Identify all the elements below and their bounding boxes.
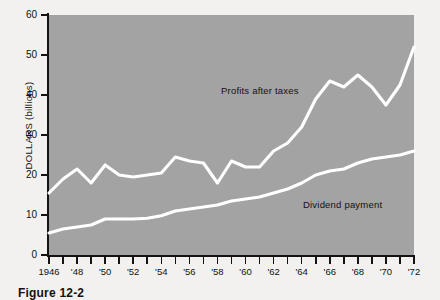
x-tick-mark bbox=[161, 257, 163, 264]
y-tick-mark bbox=[41, 214, 49, 216]
x-tick-label: '58 bbox=[211, 266, 223, 277]
y-tick-mark bbox=[41, 134, 49, 136]
y-tick-label: 40 bbox=[0, 89, 37, 100]
x-tick-label: '60 bbox=[239, 266, 251, 277]
x-tick-mark bbox=[132, 257, 134, 264]
x-tick-label: '56 bbox=[183, 266, 195, 277]
x-tick-mark bbox=[259, 257, 261, 264]
x-tick-mark bbox=[104, 257, 106, 264]
y-tick-mark bbox=[41, 174, 49, 176]
x-tick-label: '54 bbox=[155, 266, 167, 277]
x-tick-label: '64 bbox=[295, 266, 307, 277]
x-tick-label: '50 bbox=[99, 266, 111, 277]
y-tick-label: 10 bbox=[0, 209, 37, 220]
y-tick-label: 0 bbox=[0, 249, 37, 260]
series-label-profits-after-taxes: Profits after taxes bbox=[221, 85, 299, 96]
x-tick-label: '68 bbox=[352, 266, 364, 277]
x-tick-mark bbox=[343, 257, 345, 264]
figure-caption: Figure 12-2 bbox=[18, 286, 84, 300]
x-tick-mark bbox=[189, 257, 191, 264]
x-tick-mark bbox=[315, 257, 317, 264]
y-tick-label: 20 bbox=[0, 169, 37, 180]
x-tick-mark bbox=[287, 257, 289, 264]
x-tick-mark bbox=[357, 257, 359, 264]
x-tick-mark bbox=[371, 257, 373, 264]
y-tick-label: 50 bbox=[0, 49, 37, 60]
y-tick-mark bbox=[41, 94, 49, 96]
y-axis-title: DOLLARS (billions) bbox=[23, 46, 34, 206]
x-tick-mark bbox=[329, 257, 331, 264]
plot-area bbox=[49, 15, 414, 255]
x-tick-mark bbox=[273, 257, 275, 264]
x-tick-mark bbox=[146, 257, 148, 264]
x-tick-mark bbox=[203, 257, 205, 264]
x-tick-label: '62 bbox=[267, 266, 279, 277]
x-tick-label: '70 bbox=[380, 266, 392, 277]
x-tick-mark bbox=[217, 257, 219, 264]
y-tick-label: 30 bbox=[0, 129, 37, 140]
x-tick-label: '48 bbox=[71, 266, 83, 277]
x-tick-label: 1946 bbox=[38, 266, 59, 277]
x-tick-mark bbox=[62, 257, 64, 264]
x-tick-label: '52 bbox=[127, 266, 139, 277]
x-tick-mark bbox=[118, 257, 120, 264]
y-tick-mark bbox=[41, 54, 49, 56]
x-tick-mark bbox=[385, 257, 387, 264]
x-tick-mark bbox=[48, 257, 50, 264]
x-tick-label: '72 bbox=[408, 266, 420, 277]
x-tick-mark bbox=[399, 257, 401, 264]
series-label-dividend-payment: Dividend payment bbox=[303, 199, 382, 210]
x-tick-mark bbox=[175, 257, 177, 264]
x-tick-mark bbox=[231, 257, 233, 264]
x-tick-mark bbox=[413, 257, 415, 264]
y-tick-mark bbox=[41, 14, 49, 16]
x-tick-label: '66 bbox=[324, 266, 336, 277]
x-tick-mark bbox=[90, 257, 92, 264]
x-tick-mark bbox=[245, 257, 247, 264]
x-tick-mark bbox=[76, 257, 78, 264]
y-tick-mark bbox=[41, 254, 49, 256]
x-tick-mark bbox=[301, 257, 303, 264]
y-tick-label: 60 bbox=[0, 9, 37, 20]
